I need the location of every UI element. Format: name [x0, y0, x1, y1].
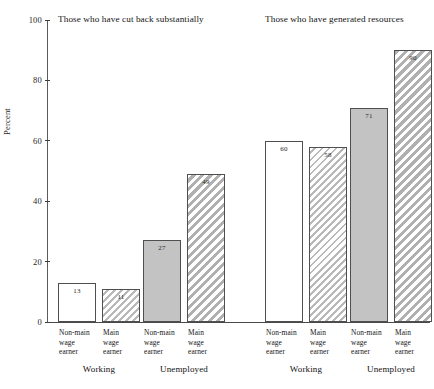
y-tick-label-0: 0: [12, 317, 42, 327]
y-tick-0: [45, 322, 50, 323]
category-label: Non-main wage earner: [144, 328, 186, 357]
bar: 90: [394, 50, 432, 322]
category-label: Main wage earner: [188, 328, 230, 357]
y-tick-label-80: 80: [12, 75, 42, 85]
bar: 60: [265, 141, 303, 322]
bar-value-label: 58: [310, 151, 346, 159]
bar-value-label: 11: [103, 293, 139, 301]
y-tick-label-20: 20: [12, 257, 42, 267]
y-axis-line: [47, 20, 48, 323]
x-axis-baseline: [47, 322, 430, 323]
panel-title-left: Those who have cut back substantially: [58, 14, 204, 24]
category-label: Non-main wage earner: [266, 328, 308, 357]
category-label: Main wage earner: [103, 328, 145, 357]
category-label: Non-main wage earner: [351, 328, 393, 357]
bar: 13: [58, 283, 96, 322]
group-label: Working: [259, 364, 353, 374]
y-tick-80: [45, 80, 50, 81]
bar-value-label: 60: [266, 145, 302, 153]
group-label: Unemployed: [344, 364, 434, 374]
bar-chart-figure: Percent 020406080100 Those who have cut …: [0, 0, 434, 389]
group-label: Working: [52, 364, 146, 374]
y-tick-label-60: 60: [12, 136, 42, 146]
bar: 71: [350, 108, 388, 322]
y-axis-title: Percent: [2, 108, 12, 135]
y-tick-20: [45, 261, 50, 262]
y-tick-label-40: 40: [12, 196, 42, 206]
y-tick-40: [45, 201, 50, 202]
bar: 11: [102, 289, 140, 322]
category-label: Main wage earner: [310, 328, 352, 357]
y-tick-60: [45, 140, 50, 141]
group-label: Unemployed: [137, 364, 231, 374]
bar-value-label: 71: [351, 112, 387, 120]
bar-value-label: 13: [59, 287, 95, 295]
bar: 49: [187, 174, 225, 322]
bar: 58: [309, 147, 347, 322]
bar-value-label: 27: [144, 244, 180, 252]
figure-caption: [10, 380, 426, 389]
category-label: Main wage earner: [395, 328, 434, 357]
panel-title-right: Those who have generated resources: [265, 14, 404, 24]
y-tick-label-100: 100: [12, 15, 42, 25]
category-label: Non-main wage earner: [59, 328, 101, 357]
y-tick-100: [45, 20, 50, 21]
bar-value-label: 49: [188, 178, 224, 186]
bar: 27: [143, 240, 181, 322]
bar-value-label: 90: [395, 54, 431, 62]
